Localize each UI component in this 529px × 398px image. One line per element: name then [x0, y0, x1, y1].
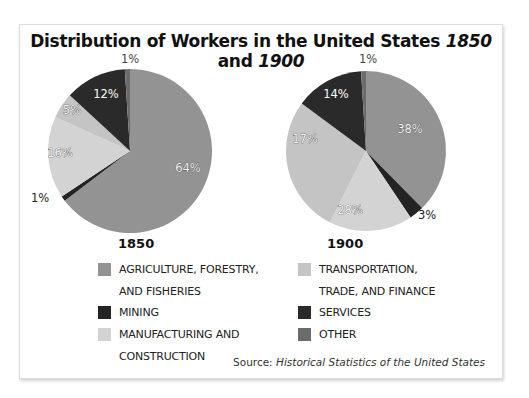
pie-label-mining: 1% — [31, 191, 49, 205]
pie-label-manufacturing: 17% — [292, 132, 318, 146]
legend-item-agriculture: AGRICULTURE, FORESTRY,AND FISHERIES — [98, 259, 258, 303]
legend-item-transportation: TRANSPORTATION,TRADE, AND FINANCE — [298, 259, 435, 303]
legend-swatch-mining — [98, 306, 111, 319]
pie-1850: 64%1%16%5%12%1% — [31, 52, 212, 233]
pie-label-mining: 3% — [418, 208, 436, 222]
pie-1900: 38%3%17%28%14%1% — [286, 52, 446, 231]
pie-label-services: 14% — [323, 87, 349, 101]
legend-label: MINING — [119, 302, 159, 324]
pie-label-other: 1% — [121, 52, 139, 66]
legend-swatch-transportation — [298, 263, 311, 276]
legend-swatch-agriculture — [98, 263, 111, 276]
pie-label-transportation: 5% — [63, 103, 81, 117]
legend-swatch-manufacturing — [98, 328, 111, 341]
pie-label-manufacturing: 16% — [47, 146, 73, 160]
source-note: Source: Historical Statistics of the Uni… — [233, 356, 485, 368]
pie-label-other: 1% — [359, 52, 377, 66]
legend-label: MANUFACTURING ANDCONSTRUCTION — [119, 324, 239, 368]
legend-item-mining: MINING — [98, 302, 159, 324]
legend-item-other: OTHER — [298, 324, 356, 346]
legend-item-services: SERVICES — [298, 302, 371, 324]
pie-label-agriculture: 64% — [175, 161, 201, 175]
legend-label: SERVICES — [319, 302, 371, 324]
legend-label: OTHER — [319, 324, 356, 346]
legend-swatch-other — [298, 328, 311, 341]
legend-swatch-services — [298, 306, 311, 319]
pie-label-transportation: 28% — [337, 203, 363, 217]
pie-label-agriculture: 38% — [397, 122, 423, 136]
year-label-1850: 1850 — [118, 236, 154, 251]
legend-label: TRANSPORTATION,TRADE, AND FINANCE — [319, 259, 435, 303]
legend-label: AGRICULTURE, FORESTRY,AND FISHERIES — [119, 259, 258, 303]
pie-charts: 64%1%16%5%12%1% 38%3%17%28%14%1% — [0, 0, 529, 398]
year-label-1900: 1900 — [327, 236, 363, 251]
legend-item-manufacturing: MANUFACTURING ANDCONSTRUCTION — [98, 324, 239, 368]
pie-label-services: 12% — [93, 87, 119, 101]
